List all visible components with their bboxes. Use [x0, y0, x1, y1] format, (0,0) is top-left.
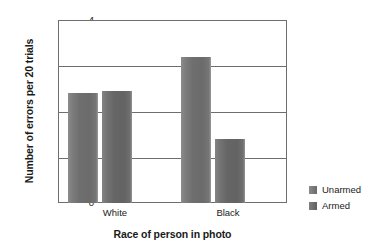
- bar-chart: Number of errors per 20 trials 4 3 2 1 0…: [0, 0, 385, 250]
- legend-swatch-icon-armed: [309, 202, 317, 210]
- legend-label-unarmed: Unarmed: [322, 185, 361, 195]
- chart-legend: Unarmed Armed: [309, 183, 361, 215]
- legend-swatch-icon-unarmed: [309, 186, 317, 194]
- gridline-3: [59, 66, 286, 67]
- legend-item-unarmed: Unarmed: [309, 183, 361, 196]
- x-tick-label-black: Black: [183, 207, 273, 218]
- plot-area: [58, 20, 287, 203]
- x-axis-title: Race of person in photo: [58, 228, 287, 240]
- y-axis-title: Number of errors per 20 trials: [23, 16, 35, 206]
- x-tick-label-white: White: [70, 207, 160, 218]
- gridline-1: [59, 158, 286, 159]
- gridline-2: [59, 112, 286, 113]
- legend-label-armed: Armed: [322, 201, 350, 211]
- legend-item-armed: Armed: [309, 199, 361, 212]
